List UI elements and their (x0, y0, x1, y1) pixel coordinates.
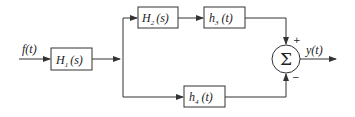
connector-h4-sum (225, 74, 286, 97)
sigma-icon: Σ (280, 49, 292, 69)
block-h1: H1(s) (51, 48, 92, 70)
block-h2-sub: 2 (151, 19, 155, 27)
block-h4: h4(t) (184, 86, 225, 107)
plus-sign: + (293, 35, 301, 45)
input-label: f(t) (22, 42, 37, 56)
block-h2: H2(s) (138, 7, 178, 28)
block-h3: h3(t) (204, 7, 245, 28)
block-diagram: f(t) H1(s) H2(s) h3(t) h4(t) (0, 0, 355, 117)
connector-h3-sum (245, 18, 286, 44)
block-h3-sub: 3 (214, 19, 219, 27)
minus-sign: − (292, 72, 300, 82)
input-signal: f(t) (19, 42, 50, 59)
output-label: y(t) (305, 43, 323, 57)
block-h1-sub: 1 (65, 61, 69, 69)
block-h1-arg: (s) (70, 53, 83, 67)
output-signal: y(t) (300, 43, 336, 59)
block-h2-arg: (s) (156, 11, 169, 25)
block-h4-sub: 4 (195, 98, 199, 106)
block-h4-arg: (t) (202, 90, 213, 104)
svg-text:h3(t): h3(t) (209, 11, 233, 27)
svg-text:h4(t): h4(t) (189, 90, 213, 106)
block-h3-arg: (t) (222, 11, 233, 25)
